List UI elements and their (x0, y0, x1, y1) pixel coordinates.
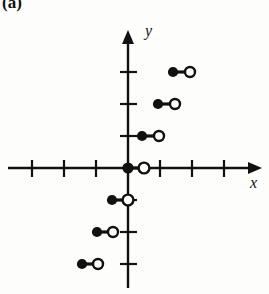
step-segment-5 (137, 131, 164, 141)
open-dot-6 (170, 99, 180, 109)
x-axis-arrowhead (248, 162, 262, 174)
open-dot-3 (123, 195, 134, 206)
closed-dot-1 (77, 259, 87, 269)
open-dot-1 (93, 259, 103, 269)
step-segment-3 (107, 195, 133, 206)
closed-dot-7 (168, 67, 178, 77)
step-segment-7 (168, 67, 195, 77)
closed-dot-5 (137, 131, 147, 141)
open-dot-7 (185, 67, 195, 77)
closed-dot-6 (153, 99, 163, 109)
closed-dot-4-origin (122, 162, 133, 173)
open-dot-5 (154, 131, 164, 141)
coordinate-plane-svg (0, 0, 269, 294)
panel-label: (a) (2, 0, 22, 13)
step-segment-1 (77, 259, 103, 269)
closed-dot-2 (92, 227, 102, 237)
y-axis (120, 30, 137, 288)
open-dot-2 (108, 227, 118, 237)
step-segment-4 (122, 162, 149, 173)
step-segment-2 (92, 227, 118, 237)
y-axis-label: y (145, 22, 152, 40)
step-segment-6 (153, 99, 180, 109)
step-function-figure: (a) (0, 0, 269, 294)
x-axis-label: x (250, 174, 257, 192)
closed-dot-3 (107, 195, 117, 205)
open-dot-4 (139, 163, 150, 174)
y-axis-arrowhead (122, 30, 134, 44)
